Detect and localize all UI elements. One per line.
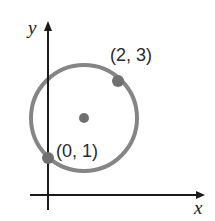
point-label-2-3: (2, 3): [110, 46, 152, 64]
x-axis-label: x: [194, 198, 202, 217]
point-2-3-marker: [112, 75, 124, 87]
circle-diagram-figure: y x (2, 3) (0, 1): [0, 0, 215, 221]
point-0-1-marker: [42, 152, 54, 164]
point-label-0-1: (0, 1): [56, 142, 98, 160]
y-axis-arrowhead: [44, 21, 52, 31]
center-point-marker: [79, 113, 89, 123]
y-axis-label: y: [28, 18, 36, 37]
